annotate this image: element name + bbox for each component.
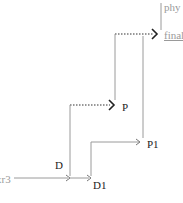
node-label-final: final xyxy=(164,30,183,41)
node-label-p1: P1 xyxy=(147,139,159,150)
node-label-p: P xyxy=(122,102,128,113)
diagram-canvas xyxy=(0,0,183,203)
node-label-d1: D1 xyxy=(93,180,106,191)
node-label-xr3: xr3 xyxy=(0,174,11,185)
node-label-d: D xyxy=(55,160,63,171)
node-label-phy: phy xyxy=(164,2,181,13)
arrow-final-bold-icon xyxy=(152,29,157,39)
